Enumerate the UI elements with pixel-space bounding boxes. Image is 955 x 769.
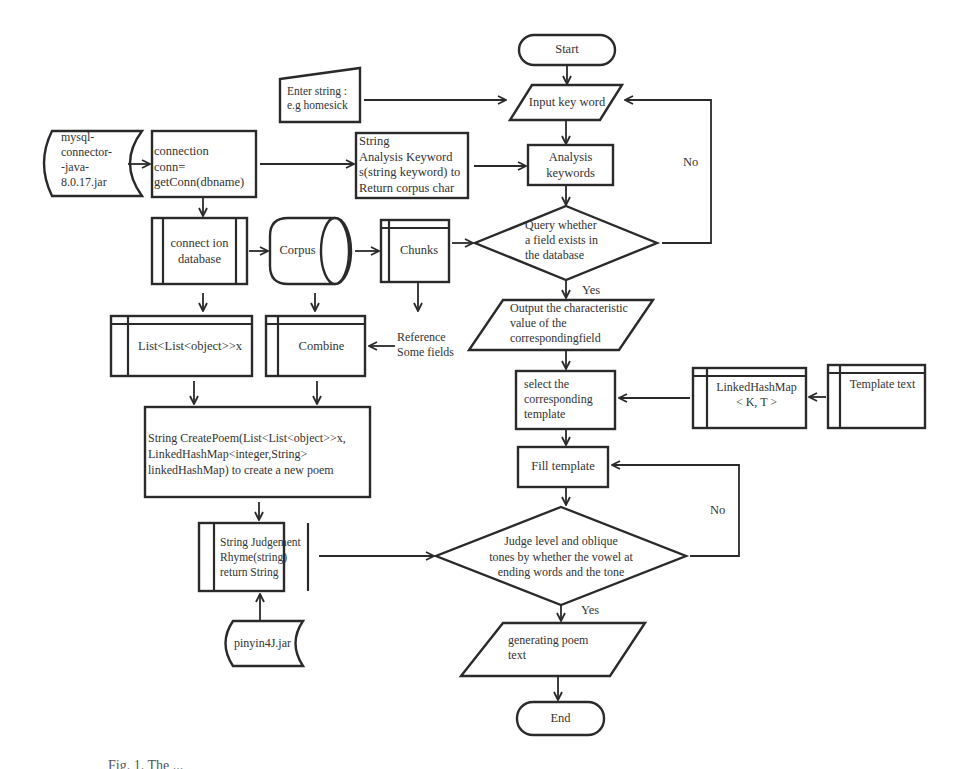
- combine-label: Combine: [278, 339, 365, 355]
- query-field-label: Query whether a field exists in the data…: [525, 218, 625, 263]
- start-label: Start: [519, 42, 615, 58]
- connection-conn-label: connection conn= getConn(dbname): [154, 144, 256, 191]
- create-poem-label: String CreatePoem(List<List<object>>x, L…: [148, 430, 370, 478]
- figure-caption: Fig. 1. The ...: [108, 758, 183, 769]
- edge-label-yes-2: Yes: [581, 603, 599, 619]
- analysis-keywords-label: Analysis keywords: [528, 150, 613, 181]
- chunks-label: Chunks: [389, 243, 449, 259]
- output-value-label: Output the characteristic value of the c…: [510, 301, 650, 346]
- string-analysis-label: String Analysis Keyword s(string keyword…: [359, 134, 469, 196]
- enter-string-label: Enter string : e.g homesick: [287, 84, 362, 112]
- judgement-rhyme-label: String Judgement Rhyme(string) return St…: [220, 535, 310, 580]
- edge-label-yes-1: Yes: [582, 283, 600, 299]
- flowchart-shapes: [0, 0, 955, 769]
- generating-poem-label: generating poem text: [508, 633, 628, 663]
- end-label: End: [517, 711, 604, 727]
- pinyin4j-label: pinyin4J.jar: [225, 636, 300, 652]
- reference-fields-label: Reference Some fields: [397, 330, 467, 360]
- linked-hashmap-label: LinkedHashMap < K, T >: [707, 380, 806, 410]
- select-template-label: select the corresponding template: [524, 377, 614, 422]
- list-object-label: List<List<object>>x: [128, 339, 252, 355]
- judge-tones-label: Judge level and oblique tones by whether…: [481, 534, 641, 581]
- connection-database-label: connect ion database: [163, 236, 236, 267]
- template-text-internal-storage: [828, 365, 925, 428]
- mysql-connector-label: mysql- connector- -java- 8.0.17.jar: [61, 130, 131, 190]
- corpus-label: Corpus: [270, 243, 325, 259]
- fill-template-label: Fill template: [518, 459, 608, 475]
- edge-label-no-1: No: [683, 155, 698, 171]
- flowchart-canvas: Start Enter string : e.g homesick Input …: [0, 0, 955, 769]
- template-text-label: Template text: [840, 377, 925, 393]
- edge-label-no-2: No: [710, 503, 725, 519]
- input-keyword-label: Input key word: [515, 95, 619, 111]
